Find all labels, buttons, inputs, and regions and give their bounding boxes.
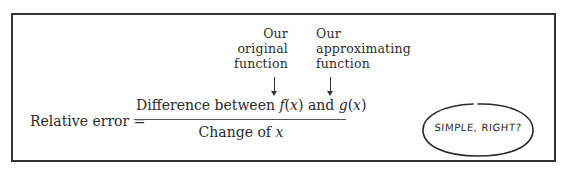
label-line: original: [170, 41, 288, 56]
label-line: Our: [170, 26, 288, 41]
label-line: approximating: [316, 41, 446, 56]
denominator-text: Change of: [199, 124, 276, 140]
approximating-function-label: Our approximating function: [316, 26, 446, 71]
label-line: function: [170, 56, 288, 71]
x-symbol: x: [290, 97, 298, 113]
label-line: Our: [316, 26, 446, 41]
numerator-text: Difference between: [136, 97, 279, 113]
down-arrow-icon: [330, 77, 331, 92]
paren: ): [361, 97, 366, 113]
and-text: and: [303, 97, 338, 113]
label-line: function: [316, 56, 446, 71]
speech-bubble-text: SIMPLE, RIGHT?: [421, 122, 536, 133]
g-symbol: g: [339, 97, 348, 113]
x-symbol: x: [353, 97, 361, 113]
formula-lhs: Relative error =: [30, 113, 145, 129]
speech-bubble: SIMPLE, RIGHT?: [421, 102, 535, 158]
formula-numerator: Difference between f(x) and g(x): [136, 97, 346, 113]
x-symbol: x: [275, 124, 283, 140]
down-arrow-icon: [274, 77, 275, 92]
original-function-label: Our original function: [170, 26, 288, 71]
formula-denominator: Change of x: [136, 124, 346, 140]
fraction-bar: [134, 119, 346, 120]
